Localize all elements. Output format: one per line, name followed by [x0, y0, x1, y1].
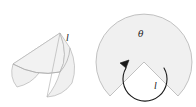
cone-slant-height-label: l — [66, 32, 69, 43]
sector-slant-height-label: l — [154, 80, 157, 91]
cone-body — [13, 33, 65, 73]
geometry-diagram: l θ l — [0, 0, 196, 107]
sector-shape — [96, 14, 192, 96]
figure-container: l θ l — [0, 0, 196, 107]
cone-figure: l — [12, 32, 75, 97]
sector-figure: θ l — [96, 14, 192, 101]
sector-angle-label: θ — [138, 29, 144, 39]
